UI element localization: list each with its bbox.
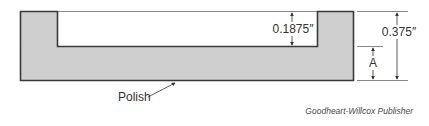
dimension-label-a: A: [369, 56, 377, 70]
callout-leader-polish: [148, 83, 175, 97]
dimension-label-step-depth: 0.1875″: [273, 22, 315, 36]
part-diagram: 0.1875″ 0.375″ A Polish Goodheart-Willco…: [0, 0, 429, 126]
publisher-credit: Goodheart-Willcox Publisher: [305, 106, 414, 116]
callout-label-polish: Polish: [118, 90, 151, 104]
dimension-label-overall-height: 0.375″: [382, 25, 417, 39]
